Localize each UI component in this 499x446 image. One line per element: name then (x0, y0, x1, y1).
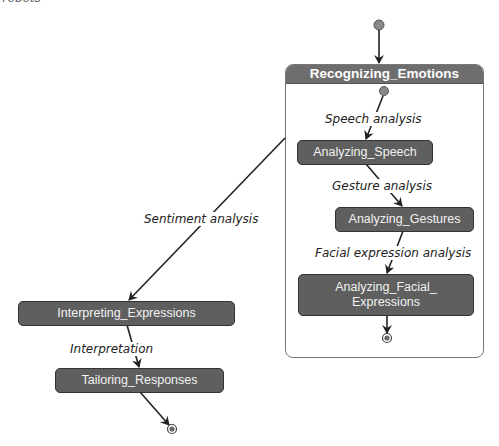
initial-state-icon (374, 20, 384, 30)
state-label: Analyzing_Speech (313, 145, 417, 160)
state-interpreting-expressions[interactable]: Interpreting_Expressions (18, 301, 235, 326)
state-analyzing-facial-expressions[interactable]: Analyzing_Facial_ Expressions (298, 274, 474, 316)
state-analyzing-speech[interactable]: Analyzing_Speech (297, 140, 433, 165)
state-label: Tailoring_Responses (81, 373, 197, 388)
state-tailoring-responses[interactable]: Tailoring_Responses (55, 368, 224, 393)
transition-label-gesture-analysis: Gesture analysis (330, 179, 434, 193)
transition-label-sentiment-analysis: Sentiment analysis (142, 212, 260, 226)
state-label-line2: Expressions (352, 295, 420, 310)
transition-label-facial-expression-analysis: Facial expression analysis (313, 246, 473, 260)
final-state-icon (168, 425, 177, 434)
state-analyzing-gestures[interactable]: Analyzing_Gestures (335, 207, 474, 232)
transition-label-speech-analysis: Speech analysis (323, 112, 424, 126)
state-label: Analyzing_Gestures (349, 212, 461, 227)
transition-label-interpretation: Interpretation (68, 342, 155, 356)
inner-final-state-icon (383, 334, 392, 343)
state-label-line1: Analyzing_Facial_ (335, 280, 436, 295)
inner-initial-state-icon (380, 87, 389, 96)
state-label: Interpreting_Expressions (57, 306, 195, 321)
